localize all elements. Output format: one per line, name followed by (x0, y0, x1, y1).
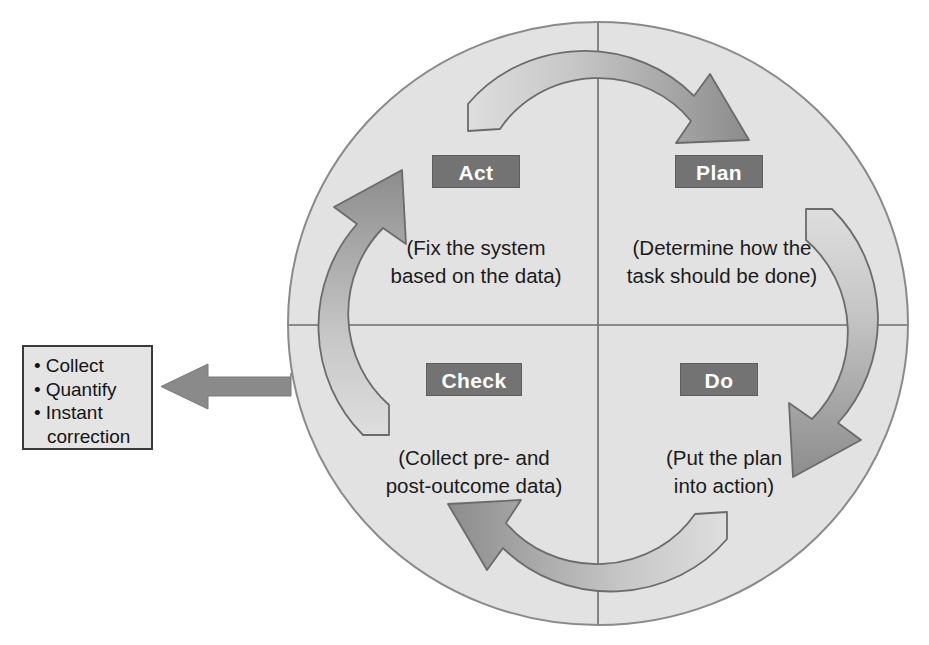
stage-chip-plan[interactable]: Plan (675, 155, 763, 188)
stage-chip-check[interactable]: Check (426, 363, 522, 396)
stage-description-act: (Fix the system based on the data) (346, 234, 606, 290)
stage-description-plan: (Determine how the task should be done) (592, 234, 852, 290)
stage-description-do: (Put the plan into action) (594, 444, 854, 500)
diagram-canvas: Act Plan Check Do (Fix the system based … (0, 0, 929, 645)
callout-item: Quantify (34, 378, 151, 402)
callout-box: Collect Quantify Instant correction (22, 345, 153, 450)
stage-chip-act[interactable]: Act (432, 155, 520, 188)
callout-item: Collect (34, 354, 151, 378)
stage-description-check: (Collect pre- and post-outcome data) (344, 444, 604, 500)
callout-item-list: Collect Quantify Instant correction (34, 354, 151, 448)
stage-chip-do[interactable]: Do (680, 363, 758, 396)
pdca-cycle-graphic (0, 0, 929, 645)
callout-connector-arrow (161, 364, 291, 409)
callout-item: Instant correction (34, 401, 151, 448)
